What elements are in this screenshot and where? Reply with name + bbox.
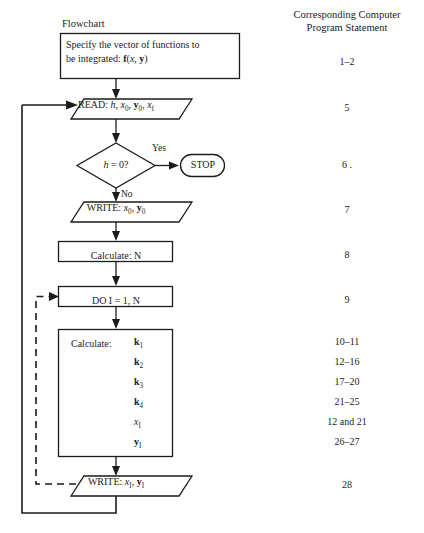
specify-box-line2: be integrated: f(x, y) <box>66 52 200 66</box>
calculate-item-subscript: 2 <box>140 362 144 370</box>
calculate-n-text: Calculate: N <box>91 250 141 262</box>
calculate-block-item: yI <box>134 437 143 457</box>
arrowhead-calcn-do <box>112 276 120 286</box>
calculate-item-subscript: 3 <box>140 382 144 390</box>
flowchart-header-label: Flowchart <box>62 18 105 30</box>
statement-number: 1–2 <box>340 56 355 67</box>
write0-node-text: WRITE: x0, y0 <box>87 202 146 216</box>
statement-column-header-line2: Program Statement <box>307 22 388 33</box>
specify-box-text: Specify the vector of functions to be in… <box>66 38 200 65</box>
write1-keyword: WRITE: <box>88 476 125 487</box>
flowchart-vector-layer <box>0 0 424 533</box>
statement-number: 5 <box>345 102 350 113</box>
calculate-block-items: k1k2k3k4xIyI <box>134 337 143 457</box>
calculate-item-subscript: 4 <box>140 402 144 410</box>
arrowhead-decision-stop <box>169 162 179 170</box>
arrowhead-inner-dashed <box>49 292 59 301</box>
calculate-block-item: k3 <box>134 377 143 397</box>
write1-y-subscript: I <box>142 482 144 490</box>
read-node-text: READ: h, x0, y0, xf <box>78 99 154 113</box>
calculate-item-subscript: I <box>139 442 141 450</box>
calculate-block-item: k2 <box>134 357 143 377</box>
arrowhead-write0-calcn <box>112 231 120 241</box>
arrowhead-outer-feedback <box>66 101 78 110</box>
calculate-block-label: Calculate: <box>71 338 112 350</box>
specify-box-line1: Specify the vector of functions to <box>66 38 200 52</box>
arrowhead-specify-read <box>112 89 120 99</box>
statement-number: 7 <box>345 204 350 215</box>
no-branch-label: No <box>121 189 133 200</box>
calculate-block-item: k4 <box>134 397 143 417</box>
statement-number: 12 and 21 <box>327 416 366 427</box>
statement-number: 12–16 <box>335 356 360 367</box>
arrowhead-do-calcblock <box>112 319 120 329</box>
statement-column-header-line1: Corresponding Computer <box>293 9 400 20</box>
decision-node-text: h = 0? <box>103 159 128 171</box>
statement-number: 28 <box>342 479 352 490</box>
calculate-block-item: xI <box>134 417 143 437</box>
statement-column-header: Corresponding Computer Program Statement <box>293 9 400 34</box>
calculate-item-subscript: I <box>138 422 140 430</box>
statement-number: 8 <box>345 249 350 260</box>
arrowhead-calcblock-write1 <box>112 466 120 476</box>
calculate-item-subscript: 1 <box>140 342 144 350</box>
flowchart-page: Flowchart Corresponding Computer Program… <box>0 0 424 533</box>
statement-number: 10–11 <box>335 336 360 347</box>
statement-number: 21–25 <box>335 396 360 407</box>
read-xf-subscript: f <box>152 105 154 113</box>
write1-node-text: WRITE: xI, yI <box>88 476 144 490</box>
yes-branch-label: Yes <box>152 143 166 154</box>
read-keyword: READ: <box>78 99 111 110</box>
write0-keyword: WRITE: <box>87 202 124 213</box>
arrowhead-decision-write0 <box>112 192 120 202</box>
statement-number: 6 . <box>342 159 352 170</box>
statement-number: 9 <box>345 294 350 305</box>
arrowhead-read-decision <box>112 133 120 143</box>
statement-number: 26–27 <box>335 436 360 447</box>
decision-condition: = 0? <box>108 159 128 170</box>
specify-box-line2-prefix: be integrated: <box>66 53 123 64</box>
specify-box-paren-close: ) <box>144 53 147 64</box>
statement-number: 17–20 <box>335 376 360 387</box>
stop-node-text: STOP <box>191 159 215 171</box>
write0-y-subscript: 0 <box>142 208 146 216</box>
calculate-block-item: k1 <box>134 337 143 357</box>
do-loop-text: DO I = 1, N <box>92 295 140 307</box>
